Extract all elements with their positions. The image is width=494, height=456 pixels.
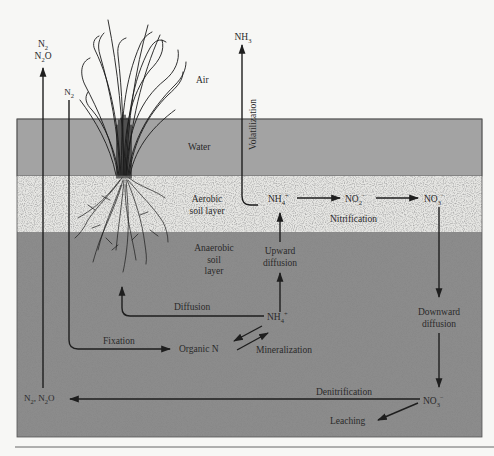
n2o-top-text: N xyxy=(35,51,42,61)
leaching-label: Leaching xyxy=(330,417,365,427)
no3-aerobic-sub: 3 xyxy=(438,199,441,206)
n2o-bottom-suffix: O xyxy=(48,393,55,403)
aerobic-label-line1: Aerobic xyxy=(189,195,224,205)
mineralization-label: Mineralization xyxy=(256,346,312,356)
no2-text: NO xyxy=(345,194,359,204)
nh3-text: NH xyxy=(235,32,249,42)
anaerobic-label: Anaerobic soil layer xyxy=(194,244,234,277)
upward-diffusion-label: Upward diffusion xyxy=(263,247,297,268)
aerobic-label-line2: soil layer xyxy=(189,207,224,217)
air-label: Air xyxy=(196,76,209,86)
n2o-top-label: N2O xyxy=(35,52,52,63)
no2-sup: − xyxy=(362,192,366,199)
downward-diffusion-line2: diffusion xyxy=(418,320,460,330)
no3-bottom-text: NO xyxy=(423,396,437,406)
nitrification-label: Nitrification xyxy=(330,215,377,225)
nh4-anaerobic-sup: + xyxy=(284,310,288,317)
n2o-bottom-text: , N xyxy=(34,393,45,403)
fixation-label: Fixation xyxy=(103,337,135,347)
aerobic-speckle xyxy=(17,176,482,232)
nitrogen-cycle-diagram xyxy=(0,0,494,456)
no3-aerobic-text: NO xyxy=(424,194,438,204)
nh3-sub: 3 xyxy=(248,37,251,44)
nh4-anaerobic-text: NH xyxy=(267,312,281,322)
organic-n-label: Organic N xyxy=(179,345,219,355)
no2-sub: 2 xyxy=(359,199,362,206)
anaerobic-label-line3: layer xyxy=(194,267,234,277)
nh4-aerobic-text: NH xyxy=(268,194,282,204)
water-label: Water xyxy=(188,143,210,153)
no3-aerobic-label: NO3− xyxy=(424,193,445,207)
nh4-anaerobic-label: NH4+ xyxy=(267,311,288,325)
no3-bottom-sub: 3 xyxy=(437,401,440,408)
anaerobic-grain xyxy=(17,232,482,437)
upward-diffusion-line1: Upward xyxy=(263,247,297,257)
n2-fix-sub: 2 xyxy=(71,92,74,99)
nh4-anaerobic-sub: 4 xyxy=(281,317,284,324)
no3-aerobic-sup: − xyxy=(441,192,445,199)
downward-diffusion-label: Downward diffusion xyxy=(418,308,460,329)
volatilization-label: Volatilization xyxy=(249,99,259,150)
downward-diffusion-line1: Downward xyxy=(418,308,460,318)
n2-top-sub: 2 xyxy=(45,44,48,51)
denitrification-label: Denitrification xyxy=(316,388,372,398)
nh4-aerobic-label: NH4+ xyxy=(268,193,289,207)
anaerobic-label-line2: soil xyxy=(194,256,234,266)
no3-bottom-label: NO3− xyxy=(423,395,444,409)
nh4-aerobic-sub: 4 xyxy=(282,199,285,206)
n2-n2o-bottom-label: N2, N2O xyxy=(24,394,55,405)
anaerobic-label-line1: Anaerobic xyxy=(194,244,234,254)
upward-diffusion-line2: diffusion xyxy=(263,259,297,269)
no3-bottom-sup: − xyxy=(440,394,444,401)
n2o-top-suffix: O xyxy=(45,51,52,61)
n2-top-text: N xyxy=(38,39,45,49)
aerobic-label: Aerobic soil layer xyxy=(189,195,224,216)
nh3-label: NH3 xyxy=(235,33,252,44)
n2-top-label: N2 xyxy=(38,40,48,51)
n2-fixation-source-label: N2 xyxy=(64,88,74,99)
nh4-aerobic-sup: + xyxy=(285,192,289,199)
diffusion-label: Diffusion xyxy=(174,303,210,313)
no2-label: NO2− xyxy=(345,193,366,207)
